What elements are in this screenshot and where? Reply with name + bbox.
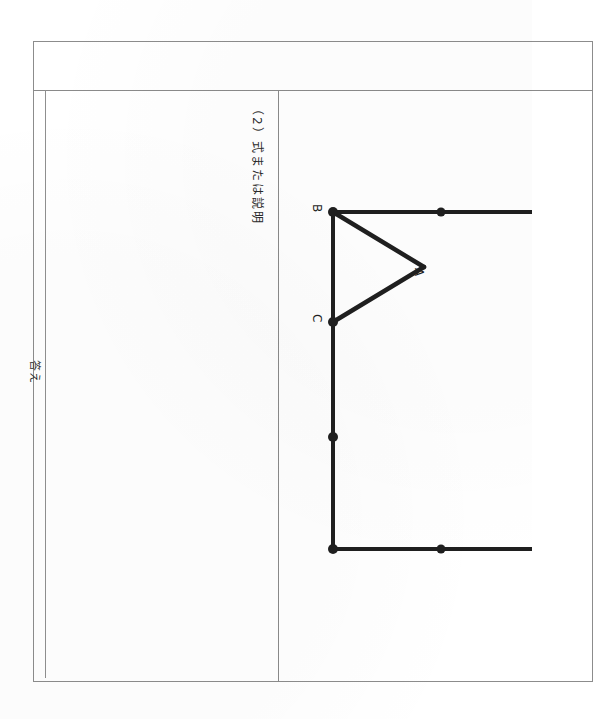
point-label-c: C: [310, 314, 324, 322]
point-marker-corner-bottom-left: [328, 544, 338, 554]
point-label-a: A: [412, 268, 426, 276]
segment-triangle-ba: [333, 212, 424, 267]
geometry-figure-svg: [278, 90, 532, 682]
point-marker-tick-bottom: [437, 545, 446, 554]
answer-label: 答え: [28, 360, 44, 384]
point-marker-tick-mid-left: [328, 432, 338, 442]
point-marker-b: [328, 207, 338, 217]
geometry-figure: B C A: [278, 90, 532, 682]
point-label-b: B: [310, 204, 324, 212]
point-marker-c: [328, 317, 338, 327]
point-marker-tick-top: [437, 208, 446, 217]
segment-triangle-ac: [333, 267, 424, 322]
answer-column-left-rule: [45, 90, 46, 678]
question-prompt-label: （2）式または説明: [250, 103, 267, 225]
